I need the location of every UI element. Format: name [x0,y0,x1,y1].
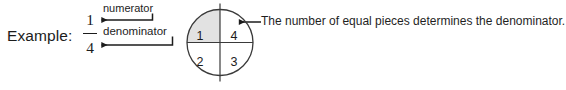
denominator-callout-label: denominator [103,24,167,38]
pie-slice-label-bottom-right: 3 [227,56,241,69]
pie-slice-label-top-right: 4 [227,30,241,43]
fraction-circle-svg [180,0,266,90]
figure-canvas: Example: 1 4 numerator denominator [0,0,566,90]
fraction-one-fourth: 1 4 [83,10,99,56]
fraction-numerator-value: 1 [83,12,97,27]
denominator-explanation-caption: The number of equal pieces determines th… [261,14,565,29]
pie-slice-label-top-left: 1 [193,30,207,43]
pie-slice-label-bottom-left: 2 [193,56,207,69]
fraction-circle-diagram: 1 4 2 3 [180,0,266,90]
numerator-callout-label: numerator [103,2,153,15]
fraction-bar [83,33,97,34]
fraction-denominator-value: 4 [83,40,97,55]
example-prefix-label: Example: [7,26,72,45]
